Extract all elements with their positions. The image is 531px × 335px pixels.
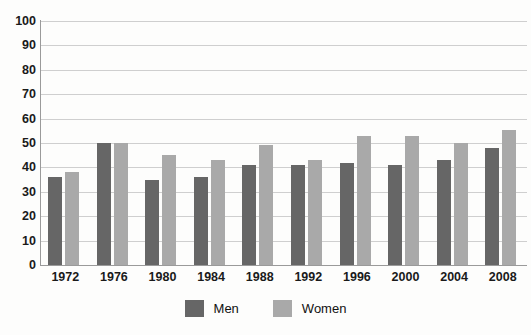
bar-men-2004[interactable] [437, 160, 451, 265]
bar-men-2008[interactable] [485, 148, 499, 265]
bar-women-2000[interactable] [405, 136, 419, 265]
legend-swatch-men [185, 300, 204, 317]
bar-group-1992 [284, 21, 333, 265]
bar-group-2008 [478, 21, 527, 265]
y-tick-label-80: 80 [2, 64, 36, 77]
y-tick-label-10: 10 [2, 235, 36, 248]
bar-group-2000 [381, 21, 430, 265]
bar-women-1980[interactable] [162, 155, 176, 265]
bar-men-1972[interactable] [48, 177, 62, 265]
legend-item-women[interactable]: Women [273, 300, 347, 317]
y-tick-label-100: 100 [2, 15, 36, 28]
plot-area [41, 21, 527, 265]
legend-label-women: Women [302, 302, 347, 315]
bar-group-1980 [138, 21, 187, 265]
bar-men-1976[interactable] [97, 143, 111, 265]
bar-women-2008[interactable] [502, 130, 516, 265]
gridline-0 [41, 265, 527, 266]
y-tick-label-20: 20 [2, 210, 36, 223]
y-tick-label-50: 50 [2, 137, 36, 150]
y-tick-label-40: 40 [2, 161, 36, 174]
x-tick-label-2008: 2008 [473, 271, 531, 284]
bar-men-1980[interactable] [145, 180, 159, 265]
bar-men-1988[interactable] [242, 165, 256, 265]
bar-men-1984[interactable] [194, 177, 208, 265]
y-tick-label-70: 70 [2, 88, 36, 101]
bar-men-1992[interactable] [291, 165, 305, 265]
y-tick-label-0: 0 [2, 259, 36, 272]
bar-group-1988 [235, 21, 284, 265]
bar-women-1992[interactable] [308, 160, 322, 265]
bar-men-2000[interactable] [388, 165, 402, 265]
bar-group-1976 [90, 21, 139, 265]
y-tick-label-30: 30 [2, 186, 36, 199]
legend-label-men: Men [214, 302, 239, 315]
y-tick-label-90: 90 [2, 39, 36, 52]
bar-group-1972 [41, 21, 90, 265]
legend-swatch-women [273, 300, 292, 317]
bar-women-1972[interactable] [65, 172, 79, 265]
bar-men-1996[interactable] [340, 163, 354, 265]
bar-chart: 1009080706050403020100 19721976198019841… [0, 0, 531, 335]
bar-group-2004 [430, 21, 479, 265]
bar-group-1984 [187, 21, 236, 265]
bar-group-1996 [333, 21, 382, 265]
bar-women-2004[interactable] [454, 143, 468, 265]
legend-item-men[interactable]: Men [185, 300, 239, 317]
bar-women-1976[interactable] [114, 143, 128, 265]
bar-women-1988[interactable] [259, 145, 273, 265]
y-tick-label-60: 60 [2, 113, 36, 126]
chart-legend: MenWomen [0, 300, 531, 317]
bar-women-1996[interactable] [357, 136, 371, 265]
bar-women-1984[interactable] [211, 160, 225, 265]
